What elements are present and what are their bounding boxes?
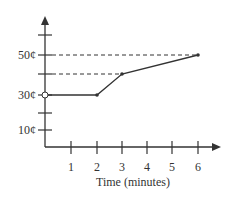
- y-label-30: 30¢: [18, 88, 36, 102]
- x-label-4: 4: [144, 160, 150, 174]
- chart: 50¢ 30¢ 10¢ 1 2 3 4 5 6 Time (minutes): [0, 0, 229, 200]
- x-axis-title: Time (minutes): [96, 175, 170, 189]
- y-label-50: 50¢: [18, 48, 36, 62]
- x-label-1: 1: [68, 160, 74, 174]
- point-marker: [196, 53, 200, 57]
- x-axis-arrow-icon: [212, 143, 221, 151]
- x-label-2: 2: [94, 160, 100, 174]
- x-label-5: 5: [169, 160, 175, 174]
- open-circle-marker: [42, 92, 48, 98]
- y-label-10: 10¢: [18, 123, 36, 137]
- x-label-3: 3: [119, 160, 125, 174]
- point-marker: [95, 93, 99, 97]
- y-axis-arrow-icon: [41, 16, 49, 25]
- x-label-6: 6: [195, 160, 201, 174]
- point-marker: [120, 72, 124, 76]
